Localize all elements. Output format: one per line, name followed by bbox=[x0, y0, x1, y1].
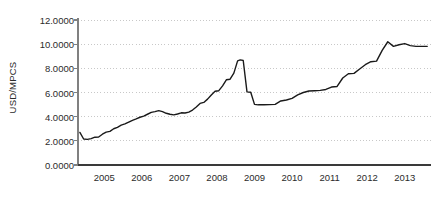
line-chart-plot bbox=[0, 0, 435, 197]
data-series-line bbox=[80, 42, 427, 140]
chart-container: USD/MPCS 0.00002.00004.00006.00008.00001… bbox=[0, 0, 435, 197]
